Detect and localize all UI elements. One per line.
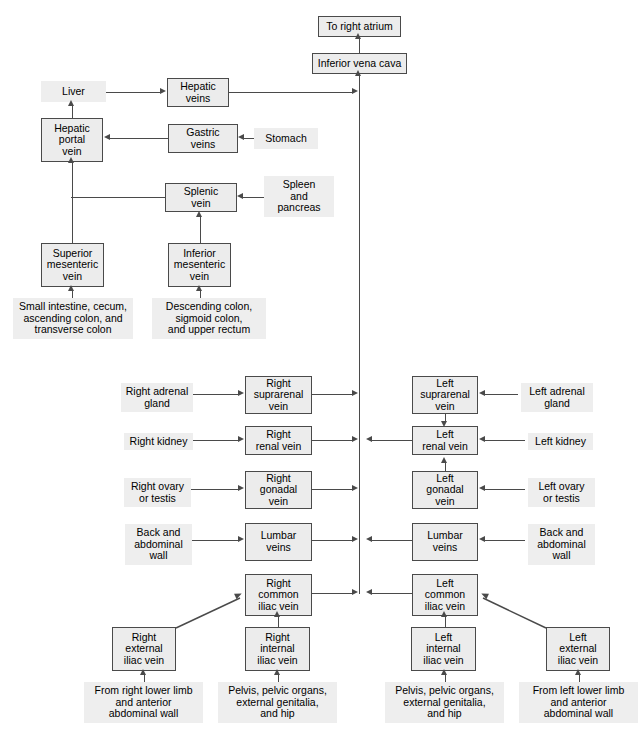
left-pelvis-to-internal-arrowhead <box>441 669 447 675</box>
node-right-back-abdominal-wall: Back and abdominal wall <box>125 524 192 565</box>
left-adrenal-to-vein-arrowhead <box>479 390 485 396</box>
left-suprarenal-to-renal-arrowhead <box>441 421 447 427</box>
ivc-trunk-arrowhead <box>355 70 361 76</box>
colon-to-imv-arrowhead <box>196 285 202 291</box>
node-right-gonadal-vein[interactable]: Right gonadal vein <box>245 471 312 509</box>
right-external-to-common-arrowhead <box>234 591 243 599</box>
diagonal-connectors <box>0 0 643 733</box>
left-limb-to-external-arrowhead <box>575 669 581 675</box>
node-inferior-mesenteric-vein[interactable]: Inferior mesenteric vein <box>168 243 231 287</box>
node-liver: Liver <box>41 81 106 102</box>
spleen-to-splenic-arrowhead <box>237 193 243 199</box>
stomach-to-gastric-arrowhead <box>238 134 244 140</box>
node-splenic-vein[interactable]: Splenic vein <box>165 183 237 212</box>
ivc-to-atrium-arrowhead <box>355 33 361 39</box>
node-hepatic-veins[interactable]: Hepatic veins <box>167 78 229 107</box>
left-gonadal-to-renal-arrowhead <box>441 457 447 463</box>
node-left-internal-iliac-vein[interactable]: Left internal iliac vein <box>411 627 476 671</box>
portal-to-liver-line <box>72 105 73 118</box>
right-gonadal-to-ivc-line <box>312 489 352 490</box>
node-left-suprarenal-vein[interactable]: Left suprarenal vein <box>412 376 478 414</box>
right-renal-to-ivc-line <box>312 440 352 441</box>
right-kidney-to-vein-line <box>186 440 238 441</box>
node-right-common-iliac-vein[interactable]: Right common iliac vein <box>245 574 312 616</box>
left-gonad-to-vein-line <box>485 489 525 490</box>
intestine-to-smv-arrowhead <box>68 285 74 291</box>
node-left-common-iliac-vein[interactable]: Left common iliac vein <box>412 574 478 616</box>
left-common-iliac-to-ivc-arrowhead <box>366 589 372 595</box>
node-spleen-and-pancreas: Spleen and pancreas <box>264 176 334 217</box>
left-external-to-common-arrowhead <box>480 591 489 599</box>
right-lumbar-to-ivc-line <box>312 540 352 541</box>
right-pelvis-to-internal-arrowhead <box>274 669 280 675</box>
node-left-external-iliac-vein[interactable]: Left external iliac vein <box>546 627 610 671</box>
node-left-adrenal-gland: Left adrenal gland <box>521 383 593 412</box>
right-internal-to-common-arrowhead <box>274 611 280 617</box>
gastric-to-portal-line <box>110 138 168 139</box>
right-adrenal-to-vein-arrowhead <box>238 390 244 396</box>
node-left-ovary-or-testis: Left ovary or testis <box>528 478 595 507</box>
left-wall-to-lumbar-arrowhead <box>479 536 485 542</box>
right-suprarenal-to-ivc-arrowhead <box>352 390 358 396</box>
node-right-renal-vein[interactable]: Right renal vein <box>245 426 312 455</box>
left-internal-to-common-line <box>445 616 446 627</box>
node-left-back-abdominal-wall: Back and abdominal wall <box>528 524 595 565</box>
right-suprarenal-to-ivc-line <box>312 394 352 395</box>
splenic-riser-line <box>72 162 73 197</box>
node-gastric-veins[interactable]: Gastric veins <box>168 124 238 153</box>
liver-to-hepatic-veins-line <box>106 92 160 93</box>
node-right-external-iliac-vein[interactable]: Right external iliac vein <box>112 627 176 671</box>
node-small-intestine-group: Small intestine, cecum, ascending colon,… <box>13 298 133 339</box>
left-common-iliac-to-ivc-line <box>372 593 412 594</box>
left-wall-to-lumbar-line <box>485 540 525 541</box>
flowchart-canvas: To right atrium Inferior vena cava Liver… <box>0 0 643 733</box>
imv-to-splenic-line <box>200 216 201 244</box>
left-renal-to-ivc-line <box>372 440 412 441</box>
left-lumbar-to-ivc-arrowhead <box>366 536 372 542</box>
node-superior-mesenteric-vein[interactable]: Superior mesenteric vein <box>41 243 104 287</box>
node-right-lumbar-veins[interactable]: Lumbar veins <box>245 523 312 561</box>
imv-to-splenic-arrowhead <box>196 211 202 217</box>
node-from-left-lower-limb: From left lower limb and anterior abdomi… <box>519 682 638 723</box>
node-right-adrenal-gland: Right adrenal gland <box>121 383 193 412</box>
left-kidney-to-vein-line <box>485 440 525 441</box>
node-descending-colon-group: Descending colon, sigmoid colon, and upp… <box>152 298 266 339</box>
node-hepatic-portal-vein[interactable]: Hepatic portal vein <box>41 118 103 162</box>
left-gonad-to-vein-arrowhead <box>479 485 485 491</box>
node-left-renal-vein[interactable]: Left renal vein <box>412 426 478 455</box>
node-left-kidney: Left kidney <box>528 433 593 450</box>
node-left-lumbar-veins[interactable]: Lumbar veins <box>412 523 478 561</box>
ivc-trunk-line <box>359 75 360 594</box>
node-right-internal-iliac-vein[interactable]: Right internal iliac vein <box>245 627 310 671</box>
liver-to-hepatic-veins-arrowhead <box>160 88 166 94</box>
portal-to-liver-arrowhead <box>68 100 74 106</box>
hepatic-veins-to-ivc-line <box>228 92 352 93</box>
right-lumbar-to-ivc-arrowhead <box>352 536 358 542</box>
splenic-to-portal-arrowhead <box>68 157 74 163</box>
node-left-pelvis-group: Pelvis, pelvic organs, external genitali… <box>385 682 504 723</box>
node-right-pelvis-group: Pelvis, pelvic organs, external genitali… <box>218 682 337 723</box>
right-common-iliac-to-ivc-line <box>312 593 352 594</box>
splenic-to-riser-line <box>71 197 165 198</box>
gastric-to-portal-arrowhead <box>104 134 110 140</box>
right-common-iliac-to-ivc-arrowhead <box>352 589 358 595</box>
smv-to-riser-line <box>72 197 73 244</box>
ivc-to-atrium-line <box>359 38 360 53</box>
node-left-gonadal-vein[interactable]: Left gonadal vein <box>412 471 478 509</box>
right-kidney-to-vein-arrowhead <box>238 436 244 442</box>
right-wall-to-lumbar-line <box>185 540 238 541</box>
left-lumbar-to-ivc-line <box>372 540 412 541</box>
right-gonad-to-vein-line <box>184 489 238 490</box>
left-renal-to-ivc-arrowhead <box>366 436 372 442</box>
node-from-right-lower-limb: From right lower limb and anterior abdom… <box>84 682 203 723</box>
right-gonadal-to-ivc-arrowhead <box>352 485 358 491</box>
right-limb-to-external-arrowhead <box>140 669 146 675</box>
right-renal-to-ivc-arrowhead <box>352 436 358 442</box>
node-right-ovary-or-testis: Right ovary or testis <box>124 478 191 507</box>
right-wall-to-lumbar-arrowhead <box>238 536 244 542</box>
hepatic-veins-to-ivc-arrowhead <box>352 88 358 94</box>
left-internal-to-common-arrowhead <box>441 611 447 617</box>
left-kidney-to-vein-arrowhead <box>479 436 485 442</box>
node-right-suprarenal-vein[interactable]: Right suprarenal vein <box>245 376 312 414</box>
left-adrenal-to-vein-line <box>485 394 518 395</box>
